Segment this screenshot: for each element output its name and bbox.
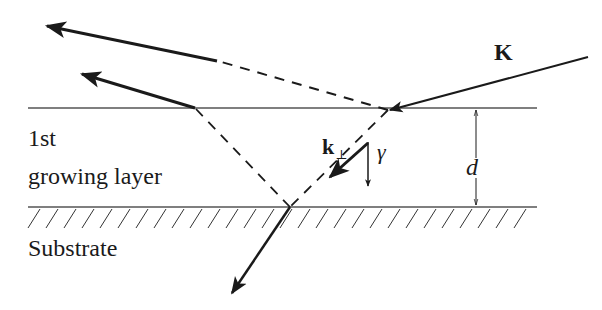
diagram-canvas: K k⊥ γ d 1st growing layer Substrate <box>0 0 602 310</box>
perp-wavevector-k: k <box>322 134 334 159</box>
angle-gamma-label: γ <box>377 141 386 163</box>
upper-reflected-dashed <box>218 61 388 110</box>
perp-wavevector-label: k⊥ <box>322 136 347 158</box>
perp-subscript: ⊥ <box>335 147 347 162</box>
interface-reflected-dashed <box>196 109 290 207</box>
incident-wavevector-label: K <box>494 40 513 64</box>
thickness-d-label: d <box>466 155 478 179</box>
lower-reflected-arrow <box>82 74 195 108</box>
transmitted-beam-arrow <box>232 207 290 293</box>
layer-label-line1: 1st <box>28 126 56 150</box>
layer-label-line2: growing layer <box>28 164 162 188</box>
substrate-label: Substrate <box>28 236 117 260</box>
incident-beam-arrow <box>390 57 588 110</box>
upper-reflected-arrow <box>47 26 217 61</box>
